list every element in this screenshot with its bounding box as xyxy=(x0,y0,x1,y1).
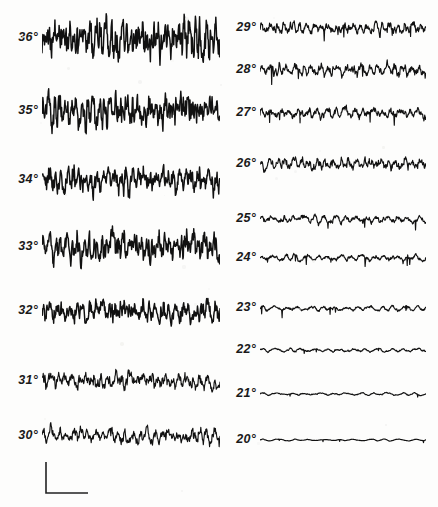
trace-label-28: 28° xyxy=(222,62,256,76)
trace-path-21 xyxy=(260,392,426,397)
trace-label-21: 21° xyxy=(222,386,256,400)
scan-speck xyxy=(120,342,124,346)
trace-33 xyxy=(42,215,220,278)
trace-path-24 xyxy=(260,254,426,267)
trace-path-20 xyxy=(260,439,426,443)
trace-32 xyxy=(42,283,220,339)
trace-path-33 xyxy=(42,226,220,269)
trace-20 xyxy=(260,429,426,451)
trace-23 xyxy=(260,295,426,322)
trace-label-33: 33° xyxy=(4,239,38,253)
trace-21 xyxy=(260,383,426,405)
trace-path-22 xyxy=(260,348,426,353)
trace-path-28 xyxy=(260,60,426,85)
trace-label-22: 22° xyxy=(222,342,256,356)
trace-label-23: 23° xyxy=(222,300,256,314)
trace-label-26: 26° xyxy=(222,156,256,170)
trace-24 xyxy=(260,243,426,273)
calibration-scale-bar xyxy=(42,458,98,502)
trace-path-25 xyxy=(260,214,426,230)
trace-27 xyxy=(260,94,426,131)
trace-22 xyxy=(260,338,426,362)
trace-35 xyxy=(42,75,220,146)
trace-path-35 xyxy=(42,89,220,134)
trace-path-27 xyxy=(260,105,426,125)
trace-label-29: 29° xyxy=(222,20,256,34)
trace-path-31 xyxy=(42,369,220,392)
trace-label-27: 27° xyxy=(222,105,256,119)
recording-figure: 36°35°34°33°32°31°30°29°28°27°26°25°24°2… xyxy=(0,0,438,507)
trace-path-32 xyxy=(42,299,220,327)
trace-34 xyxy=(42,150,220,211)
trace-path-30 xyxy=(42,423,220,447)
trace-31 xyxy=(42,357,220,405)
trace-path-23 xyxy=(260,305,426,317)
trace-29 xyxy=(260,8,426,48)
trace-label-24: 24° xyxy=(222,250,256,264)
trace-28 xyxy=(260,50,426,90)
scan-speck xyxy=(220,84,222,86)
trace-label-31: 31° xyxy=(4,373,38,387)
trace-path-34 xyxy=(42,164,220,200)
trace-label-35: 35° xyxy=(4,103,38,117)
trace-25 xyxy=(260,203,426,235)
trace-label-36: 36° xyxy=(4,30,38,44)
trace-label-20: 20° xyxy=(222,432,256,446)
scan-speck xyxy=(385,424,387,426)
trace-label-25: 25° xyxy=(222,211,256,225)
scale-bar-icon xyxy=(42,458,98,498)
trace-path-29 xyxy=(260,21,426,41)
trace-label-32: 32° xyxy=(4,303,38,317)
trace-label-30: 30° xyxy=(4,428,38,442)
trace-30 xyxy=(42,413,220,458)
trace-path-26 xyxy=(260,157,426,172)
trace-26 xyxy=(260,144,426,184)
trace-label-34: 34° xyxy=(4,172,38,186)
scan-speck xyxy=(181,490,183,492)
trace-path-36 xyxy=(42,14,220,66)
trace-36 xyxy=(42,0,220,79)
